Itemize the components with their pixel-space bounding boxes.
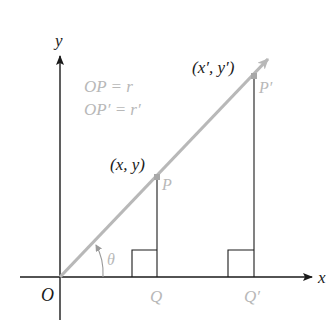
origin-label: O bbox=[41, 285, 54, 305]
y-axis-label: y bbox=[53, 31, 63, 50]
right-angle-marker-q bbox=[132, 250, 157, 277]
rotation-diagram: y x O OP = r OP′ = r′ (x, y) P (x′, y′) … bbox=[0, 0, 335, 336]
point-p-coord-label: (x, y) bbox=[110, 155, 145, 174]
point-q-label: Q bbox=[150, 287, 162, 306]
point-p-prime-label: P′ bbox=[258, 79, 273, 96]
x-axis-label: x bbox=[317, 268, 326, 287]
point-q-prime-label: Q′ bbox=[244, 287, 260, 306]
relation-op-prime: OP′ = r′ bbox=[84, 100, 141, 119]
point-p-label: P bbox=[161, 176, 172, 193]
point-p-prime-coord-label: (x′, y′) bbox=[192, 58, 235, 77]
right-angle-marker-q-prime bbox=[228, 250, 254, 277]
angle-arc-theta bbox=[96, 245, 103, 277]
point-p bbox=[154, 174, 160, 180]
angle-theta-label: θ bbox=[107, 251, 115, 268]
relation-op: OP = r bbox=[84, 77, 133, 96]
point-p-prime bbox=[251, 73, 257, 79]
